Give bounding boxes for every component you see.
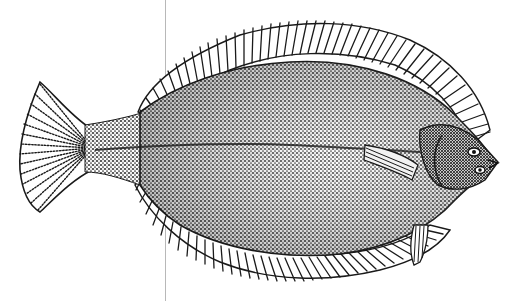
illustration-canvas (0, 0, 522, 301)
flounder-illustration (0, 0, 522, 301)
tail-fin (20, 82, 92, 212)
pelvic-fin (411, 225, 428, 265)
